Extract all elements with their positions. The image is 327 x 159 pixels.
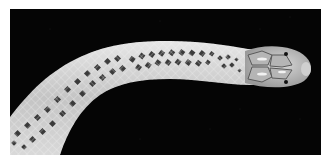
eye-icon — [284, 80, 288, 84]
head-highlight — [278, 71, 286, 74]
snake-head — [245, 46, 311, 87]
snake-photo: Photograph of a pale snake with a dark d… — [10, 9, 321, 155]
snout — [301, 62, 311, 76]
eye-icon — [284, 52, 288, 56]
snake-illustration — [10, 9, 321, 155]
head-highlight — [257, 72, 267, 75]
head-highlight — [257, 57, 267, 60]
